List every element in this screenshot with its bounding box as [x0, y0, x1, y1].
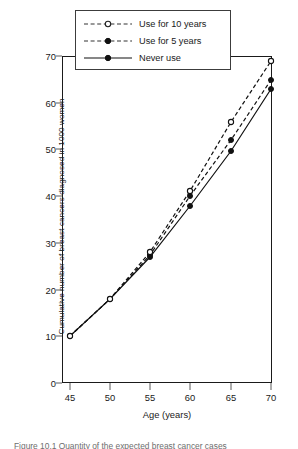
series-use-5-years — [70, 78, 274, 337]
legend-item-never-use: Never use — [76, 49, 230, 66]
series-never-use — [68, 87, 274, 339]
legend-key-solid-filled-circle-icon — [83, 51, 133, 65]
legend-label-never-use: Never use — [139, 53, 181, 63]
figure-caption: Figure 10.1 Quantity of the expected bre… — [14, 441, 286, 449]
chart-legend: Use for 10 years Use for 5 years Never u… — [75, 10, 231, 70]
legend-label-use-10-years: Use for 10 years — [139, 19, 206, 29]
legend-key-dashed-filled-circle-icon — [83, 34, 133, 48]
legend-item-use-5-years: Use for 5 years — [76, 32, 230, 49]
figure-container: Cumulative number of breast cancers diag… — [0, 0, 298, 449]
legend-item-use-10-years: Use for 10 years — [76, 15, 230, 32]
series-use-10-years — [67, 58, 273, 338]
legend-label-use-5-years: Use for 5 years — [139, 36, 201, 46]
x-tick-marks — [70, 383, 271, 390]
legend-key-dashed-open-circle-icon — [83, 17, 133, 31]
y-tick-marks — [56, 56, 62, 383]
x-axis-title: Age (years) — [62, 409, 272, 420]
